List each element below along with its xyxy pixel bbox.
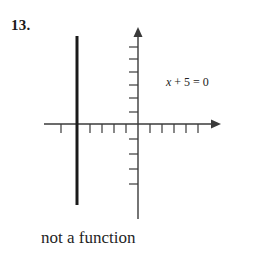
y-axis-ticks-positive bbox=[129, 47, 138, 112]
figure-container: 13. bbox=[0, 0, 256, 255]
equation-rest: + 5 = 0 bbox=[171, 75, 209, 89]
x-axis-arrow-icon bbox=[211, 120, 221, 129]
equation-label: x + 5 = 0 bbox=[166, 75, 209, 90]
x-axis-ticks-positive bbox=[150, 124, 198, 133]
y-axis-arrow-icon bbox=[134, 27, 143, 37]
answer-caption: not a function bbox=[41, 228, 135, 248]
coordinate-plane-graph bbox=[0, 0, 256, 255]
y-axis-ticks-negative bbox=[129, 139, 138, 184]
x-axis-ticks-negative bbox=[61, 124, 126, 133]
